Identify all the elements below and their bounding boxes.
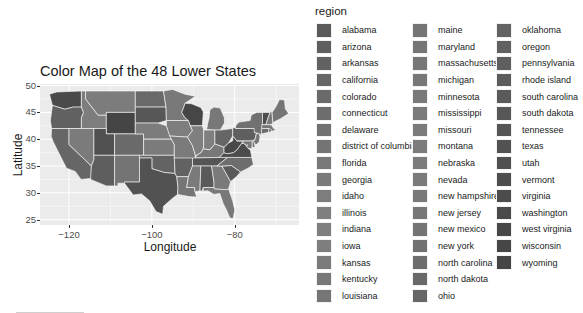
legend-swatch <box>412 73 428 88</box>
legend-item: arizona <box>316 39 417 56</box>
legend-label: georgia <box>342 175 372 185</box>
legend-swatch <box>412 139 428 154</box>
legend-swatch <box>496 106 512 121</box>
legend-label: colorado <box>342 92 377 102</box>
legend-item: delaware <box>316 122 417 139</box>
legend-label: montana <box>438 141 473 151</box>
legend-swatch <box>496 40 512 55</box>
legend-swatch <box>496 89 512 104</box>
legend-swatch <box>496 56 512 71</box>
legend-label: california <box>342 75 378 85</box>
legend-swatch <box>496 189 512 204</box>
y-tick-label: 45 <box>0 106 36 117</box>
legend-item: oklahoma <box>496 22 578 39</box>
legend-item: tennessee <box>496 122 578 139</box>
legend-label: washington <box>522 208 568 218</box>
legend-item: nebraska <box>412 155 499 172</box>
legend-swatch <box>412 156 428 171</box>
legend-label: indiana <box>342 224 371 234</box>
legend-label: alabama <box>342 25 377 35</box>
plot-title: Color Map of the 48 Lower States <box>40 63 256 79</box>
y-tick-mark <box>37 193 40 194</box>
legend-item: texas <box>496 138 578 155</box>
y-tick-mark <box>37 86 40 87</box>
legend-item: michigan <box>412 72 499 89</box>
legend-label: florida <box>342 158 367 168</box>
legend-label: new mexico <box>438 224 486 234</box>
state-wyoming <box>106 112 135 133</box>
legend-swatch <box>316 172 332 187</box>
legend-swatch <box>496 255 512 270</box>
legend-label: connecticut <box>342 108 388 118</box>
legend-item: kentucky <box>316 271 417 288</box>
legend-label: new jersey <box>438 208 481 218</box>
legend-swatch <box>412 106 428 121</box>
x-tick-label: −80 <box>215 229 255 240</box>
legend-swatch <box>316 272 332 287</box>
legend-item: virginia <box>496 188 578 205</box>
legend-item: new hampshire <box>412 188 499 205</box>
legend-item: wisconsin <box>496 238 578 255</box>
legend-item: new jersey <box>412 205 499 222</box>
legend-item: utah <box>496 155 578 172</box>
legend-item: idaho <box>316 188 417 205</box>
legend-label: nebraska <box>438 158 475 168</box>
legend-item: california <box>316 72 417 89</box>
legend-label: massachusetts <box>438 58 498 68</box>
legend-item: district of columbia <box>316 138 417 155</box>
state-florida <box>203 188 235 219</box>
legend-swatch <box>316 255 332 270</box>
legend-item: pennsylvania <box>496 55 578 72</box>
state-new-mexico <box>115 155 140 186</box>
y-axis-label: Latitude <box>11 125 25 185</box>
legend-swatch <box>496 73 512 88</box>
legend-item: vermont <box>496 171 578 188</box>
legend-swatch <box>316 289 332 304</box>
legend-label: north dakota <box>438 274 488 284</box>
legend-item: minnesota <box>412 88 499 105</box>
legend-item: wyoming <box>496 254 578 271</box>
legend-label: louisiana <box>342 291 378 301</box>
legend-label: nevada <box>438 175 468 185</box>
legend-swatch <box>412 123 428 138</box>
state-maine <box>272 100 289 123</box>
legend-label: tennessee <box>522 125 564 135</box>
legend-swatch <box>412 89 428 104</box>
legend-label: mississippi <box>438 108 482 118</box>
legend-label: oklahoma <box>522 25 561 35</box>
legend-label: rhode island <box>522 75 571 85</box>
legend-label: illinois <box>342 208 367 218</box>
legend-item: arkansas <box>316 55 417 72</box>
legend-item: montana <box>412 138 499 155</box>
legend-item: florida <box>316 155 417 172</box>
x-tick-mark <box>152 225 153 228</box>
legend-swatch <box>412 23 428 38</box>
legend-label: missouri <box>438 125 472 135</box>
legend-label: texas <box>522 141 544 151</box>
y-tick-label: 25 <box>0 214 36 225</box>
legend-swatch <box>316 139 332 154</box>
legend-label: vermont <box>522 175 555 185</box>
legend-item: washington <box>496 205 578 222</box>
legend-item: georgia <box>316 171 417 188</box>
state-kansas <box>144 139 175 155</box>
legend-swatch <box>412 189 428 204</box>
legend-item: oregon <box>496 39 578 56</box>
legend-swatch <box>316 106 332 121</box>
state-connecticut <box>261 129 268 134</box>
state-iowa <box>166 121 192 138</box>
legend-label: new york <box>438 241 474 251</box>
legend-label: minnesota <box>438 92 480 102</box>
legend-item: massachusetts <box>412 55 499 72</box>
legend-item: missouri <box>412 122 499 139</box>
legend-label: south dakota <box>522 108 574 118</box>
us-states-map <box>40 84 299 225</box>
legend-item: north dakota <box>412 271 499 288</box>
legend-swatch <box>496 23 512 38</box>
legend-item: south dakota <box>496 105 578 122</box>
legend-item: indiana <box>316 221 417 238</box>
legend-swatch <box>316 89 332 104</box>
legend-swatch <box>496 239 512 254</box>
y-tick-label: 30 <box>0 187 36 198</box>
legend-item: mississippi <box>412 105 499 122</box>
